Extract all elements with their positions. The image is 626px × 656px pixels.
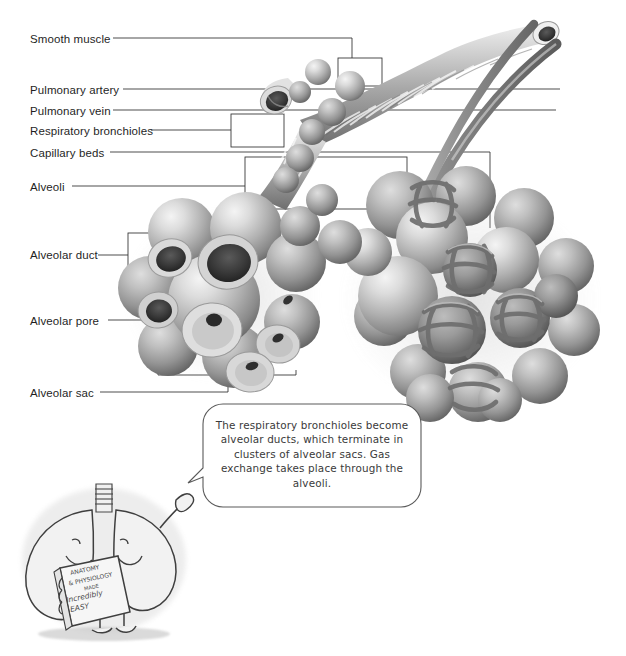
callout-text: The respiratory bronchioles become alveo… [213, 418, 411, 490]
alveolar-sac-cutaway [118, 184, 362, 394]
mascot-trachea [96, 484, 112, 512]
mascot-hand [176, 494, 194, 512]
leader-smooth-muscle [113, 38, 352, 58]
label-alveolar-pore: Alveolar pore [30, 315, 99, 327]
label-respiratory-bronchioles: Respiratory bronchioles [30, 125, 153, 137]
label-alveolar-duct: Alveolar duct [30, 249, 98, 261]
label-capillary-beds: Capillary beds [30, 147, 104, 159]
bracket-respiratory-bronchioles [231, 114, 284, 147]
lungs-mascot [22, 484, 194, 641]
alveolar-pore-opening [206, 314, 222, 327]
label-alveoli: Alveoli [30, 181, 65, 193]
figure-canvas: Smooth muscle Pulmonary artery Pulmonary… [0, 0, 626, 656]
label-pulmonary-artery: Pulmonary artery [30, 84, 119, 96]
alveoli-illustration [0, 0, 626, 656]
label-smooth-muscle: Smooth muscle [30, 33, 111, 45]
label-alveolar-sac: Alveolar sac [30, 387, 94, 399]
label-pulmonary-vein: Pulmonary vein [30, 105, 111, 117]
alveolar-cluster-right [340, 166, 600, 422]
